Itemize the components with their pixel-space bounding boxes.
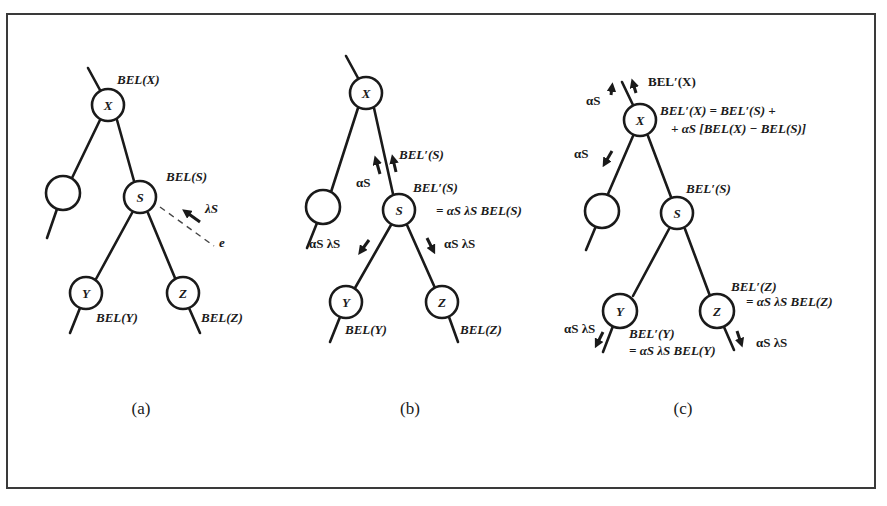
belief-y-line1: BEL′(Y)	[628, 326, 675, 341]
edge-s-z	[685, 229, 710, 296]
belief-y-label: BEL(Y)	[344, 322, 387, 337]
edge-parent-x	[622, 82, 633, 105]
belief-propagation-diagram: X S Y Z BEL(X) BEL(S) BEL(Y) BEL(Z) λS e…	[0, 0, 887, 506]
lambda-message-label: λS	[204, 201, 218, 216]
top-alpha-message: αS	[586, 93, 601, 108]
belief-up-arrow-icon	[393, 159, 396, 172]
node-x-label: X	[103, 98, 113, 113]
belief-s-label: BEL′(S)	[685, 181, 731, 196]
y-down-message: αS λS	[564, 321, 595, 336]
node-left	[46, 176, 80, 210]
caption-c: (c)	[674, 399, 693, 418]
panel-b: X S Y Z BEL′(S) αS BEL′(S) = αS λS BEL(S…	[306, 56, 522, 418]
z-down-message: αS λS	[756, 335, 787, 350]
edge-s-y	[355, 225, 391, 288]
node-s-label: S	[395, 203, 402, 218]
up-belief-message: BEL′(S)	[398, 147, 444, 162]
panel-c: X S Y Z BEL′(X) αS BEL′(X) = BEL′(S) + +…	[564, 74, 832, 418]
node-y-label: Y	[616, 304, 625, 319]
belief-x-label: BEL(X)	[116, 72, 160, 87]
left-down-arrow-icon	[605, 151, 612, 163]
node-left	[306, 190, 340, 224]
node-left	[585, 194, 619, 228]
edge-s-z	[407, 225, 435, 288]
edge-x-left	[72, 120, 100, 178]
left-down-arrow-icon	[361, 240, 369, 251]
edge-z-child	[724, 327, 734, 350]
edge-left-child	[586, 226, 596, 250]
left-down-message: αS λS	[309, 236, 340, 251]
node-z-label: Z	[437, 295, 446, 310]
alpha-up-arrow-icon	[611, 87, 612, 95]
node-y-label: Y	[342, 295, 351, 310]
caption-b: (b)	[400, 399, 420, 418]
up-alpha-message: αS	[356, 175, 371, 190]
node-x-label: X	[635, 113, 645, 128]
edge-left-child	[47, 209, 57, 238]
y-down-arrow-icon	[597, 332, 603, 344]
node-z-label: Z	[178, 286, 187, 301]
edge-z-child	[449, 317, 458, 342]
edge-s-y	[96, 213, 132, 279]
edge-z-child	[189, 308, 200, 333]
z-down-arrow-icon	[737, 331, 741, 343]
edge-y-child	[603, 326, 613, 352]
belief-s-line2: = αS λS BEL(S)	[436, 203, 522, 218]
belief-y-line2: = αS λS BEL(Y)	[629, 343, 715, 358]
edge-s-y	[633, 229, 669, 296]
belief-s-line1: BEL′(S)	[412, 180, 458, 195]
belief-z-line1: BEL′(Z)	[730, 279, 777, 294]
node-s-label: S	[136, 190, 143, 205]
edge-y-child	[70, 308, 80, 333]
evidence-label: e	[219, 235, 225, 250]
node-s-label: S	[673, 206, 680, 221]
edge-x-s	[648, 136, 671, 197]
node-y-label: Y	[82, 286, 91, 301]
edge-y-child	[330, 317, 340, 342]
edge-s-z	[148, 213, 175, 278]
lambda-arrow-icon	[186, 212, 200, 222]
right-down-message: αS λS	[444, 236, 475, 251]
node-x-label: X	[361, 86, 371, 101]
belief-y-label: BEL(Y)	[95, 310, 138, 325]
belief-s-label: BEL(S)	[165, 169, 207, 184]
caption-a: (a)	[132, 399, 151, 418]
left-alpha-message: αS	[574, 146, 589, 161]
belief-x-line1: BEL′(X) = BEL′(S) +	[659, 103, 776, 118]
edge-x-s	[374, 108, 393, 194]
panel-a: X S Y Z BEL(X) BEL(S) BEL(Y) BEL(Z) λS e…	[46, 68, 243, 418]
node-z-label: Z	[712, 304, 721, 319]
top-belief-message: BEL′(X)	[648, 74, 696, 89]
edge-x-s	[117, 120, 134, 181]
edge-x-left	[608, 136, 633, 194]
belief-z-label: BEL(Z)	[459, 322, 502, 337]
belief-x-line2: + αS [BEL(X) − BEL(S)]	[671, 121, 806, 136]
belief-up-arrow-icon	[633, 83, 636, 93]
edge-parent-x	[88, 68, 100, 90]
edge-x-left	[331, 108, 358, 192]
right-down-arrow-icon	[427, 238, 433, 250]
belief-z-line2: = αS λS BEL(Z)	[746, 294, 832, 309]
alpha-up-arrow-icon	[376, 160, 380, 174]
belief-z-label: BEL(Z)	[200, 310, 243, 325]
edge-parent-x	[346, 56, 358, 78]
